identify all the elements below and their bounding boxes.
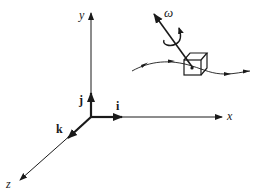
cube-center-dot: [190, 66, 193, 69]
unit-vector-k: [68, 117, 91, 138]
unit-vector-i-label: i: [116, 100, 119, 112]
x-axis-label: x: [227, 110, 232, 122]
trajectory-arrow-1: [141, 63, 148, 69]
unit-vector-k-label: k: [56, 123, 63, 135]
unit-vector-j-label: j: [79, 94, 83, 106]
cube: [184, 53, 207, 75]
axes-diagram: [0, 0, 260, 194]
omega-label: ω: [164, 6, 173, 19]
trajectory-arrow-3: [224, 72, 231, 76]
y-axis-label: y: [79, 9, 84, 21]
z-axis-label: z: [6, 178, 11, 190]
diagram-canvas: y x z j i k ω: [0, 0, 260, 194]
